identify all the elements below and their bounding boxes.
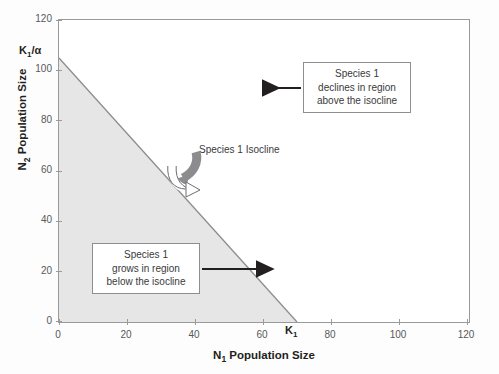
x-tick-mark-120 xyxy=(467,319,468,325)
figure-canvas: 120 100 80 60 40 20 0 K1/α 0 20 40 60 80… xyxy=(0,0,499,374)
y-tick-label-0: 0 xyxy=(18,315,52,326)
y-tick-label-40: 40 xyxy=(18,214,52,225)
x-tick-label-120: 120 xyxy=(449,329,483,340)
y-tick-mark-100 xyxy=(56,70,62,71)
x-tick-label-100: 100 xyxy=(381,329,415,340)
callout-above-line-2: declines in region xyxy=(318,81,396,95)
x-axis-title: N1 Population Size xyxy=(58,349,470,364)
x-tick-mark-0 xyxy=(59,319,60,325)
callout-species-1-grows: Species 1 grows in region below the isoc… xyxy=(92,243,200,294)
x-axis-title-rest: Population Size xyxy=(226,349,315,361)
y-axis-title-main: N xyxy=(16,162,28,170)
callout-below-line-3: below the isocline xyxy=(107,275,186,289)
callout-above-line-1: Species 1 xyxy=(335,67,379,81)
x-axis-k1-label: K1 xyxy=(285,324,297,339)
callout-below-line-1: Species 1 xyxy=(124,248,168,262)
x-tick-mark-20 xyxy=(127,319,128,325)
x-tick-mark-80 xyxy=(331,319,332,325)
y-tick-mark-80 xyxy=(56,120,62,121)
x-tick-label-20: 20 xyxy=(109,329,143,340)
species-1-isocline-label: Species 1 Isocline xyxy=(199,144,280,155)
x-tick-label-0: 0 xyxy=(41,329,75,340)
callout-species-1-declines: Species 1 declines in region above the i… xyxy=(303,62,411,113)
x-tick-label-60: 60 xyxy=(245,329,279,340)
callout-above-line-3: above the isocline xyxy=(317,94,397,108)
k1-alpha-rest: /α xyxy=(31,44,41,56)
x-tick-label-40: 40 xyxy=(177,329,211,340)
y-tick-mark-20 xyxy=(56,271,62,272)
y-tick-label-120: 120 xyxy=(18,13,52,24)
x-tick-label-80: 80 xyxy=(313,329,347,340)
k1-main: K xyxy=(285,324,293,336)
y-axis-title-sub: 2 xyxy=(22,158,32,163)
callout-below-line-2: grows in region xyxy=(112,262,180,276)
y-axis-title: N2 Population Size xyxy=(16,50,31,190)
y-tick-mark-40 xyxy=(56,221,62,222)
y-axis-title-rest: Population Size xyxy=(16,69,28,158)
y-tick-mark-120 xyxy=(56,20,62,21)
y-tick-mark-60 xyxy=(56,171,62,172)
y-tick-label-20: 20 xyxy=(18,265,52,276)
x-tick-mark-60 xyxy=(263,319,264,325)
x-tick-mark-100 xyxy=(399,319,400,325)
k1-sub: 1 xyxy=(293,330,297,339)
x-tick-mark-40 xyxy=(195,319,196,325)
